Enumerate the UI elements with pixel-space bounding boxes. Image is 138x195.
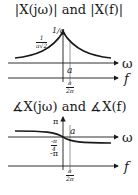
phase-omega-axis-label: ω <box>122 131 133 144</box>
omega-axis-label: ω <box>122 57 133 70</box>
f-tick-a-over-2pi: a 2π <box>66 80 74 94</box>
peak-label: 1/a <box>52 27 65 35</box>
phase-f-axis-label: f <box>124 160 129 173</box>
diagram-graphics <box>0 0 138 195</box>
pi-label: π <box>53 118 58 126</box>
phase-f-tick-a-over-2pi: a 2π <box>66 168 74 182</box>
f-axis-label: f <box>124 72 129 85</box>
neg-pi-label: -π <box>50 150 58 158</box>
omega-tick-a: a <box>67 66 72 75</box>
phase-omega-tick-a: a <box>70 127 75 136</box>
half-power-label: 1 a√2 <box>36 35 47 49</box>
